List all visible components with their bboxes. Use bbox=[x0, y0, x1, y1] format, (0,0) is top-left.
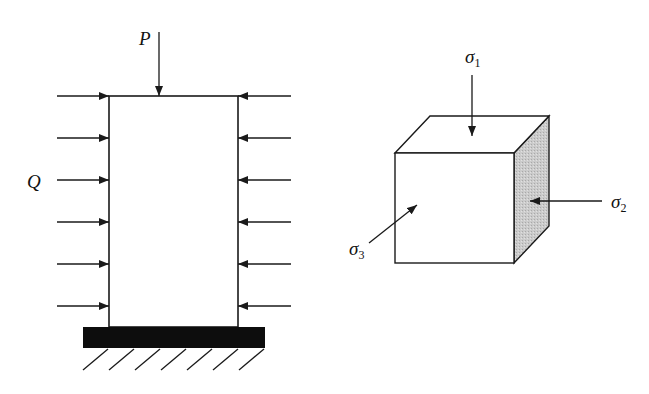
load-q-arrows-right bbox=[238, 96, 291, 306]
sigma2-label: σ2 bbox=[611, 191, 626, 215]
sigma1-label: σ1 bbox=[465, 46, 480, 70]
ground-support bbox=[83, 327, 265, 348]
diagram-canvas: P Q σ1 σ2 bbox=[0, 0, 649, 394]
load-q-label: Q bbox=[27, 171, 41, 192]
stress-cube-figure: σ1 σ2 σ3 bbox=[349, 46, 626, 263]
load-p-label: P bbox=[138, 28, 151, 49]
column-figure: P Q bbox=[27, 28, 291, 370]
column-body bbox=[109, 96, 238, 327]
sigma3-label: σ3 bbox=[349, 238, 364, 262]
ground-hatching bbox=[83, 349, 264, 370]
load-q-arrows-left bbox=[57, 96, 109, 306]
